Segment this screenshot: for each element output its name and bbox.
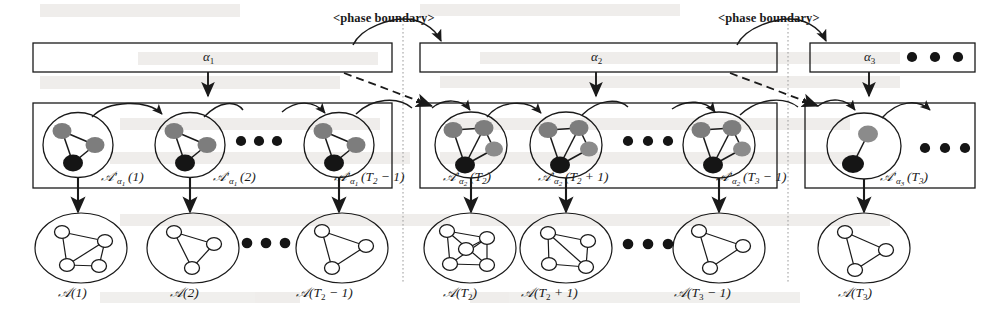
node-gray <box>347 137 366 153</box>
latent-label-ga1-1: 𝒜′α1 (1) <box>101 169 144 188</box>
node-gray <box>858 126 878 143</box>
observed-graph-nodes <box>315 225 374 275</box>
temporal-arrow-1 <box>92 103 162 117</box>
temporal-arrow-8 <box>672 102 715 112</box>
alpha-subscript: 1 <box>210 56 215 66</box>
graph-evolution-diagram: <phase boundary> <phase boundary> α1 α2 … <box>0 0 985 314</box>
phase-boundary-label-2: <phase boundary> <box>718 11 820 26</box>
latent-trailing-ellipsis <box>920 143 970 153</box>
latent-label-ga2-T2: 𝒜′α2 (T2) <box>443 169 491 188</box>
temporal-arrow-6 <box>487 103 541 117</box>
node-gray <box>539 122 558 138</box>
temporal-arrow-2 <box>204 104 243 117</box>
temporal-arrow-10 <box>818 100 855 110</box>
phase-label-alpha2: α2 <box>591 49 602 66</box>
alpha-symbol: α <box>203 49 210 64</box>
node-gray <box>165 123 184 139</box>
observed-label-g-T3: 𝒜(T3) <box>838 285 872 302</box>
latent-label-ga1-2: 𝒜′α1 (2) <box>213 169 256 188</box>
alpha-subscript: 3 <box>871 56 876 66</box>
latent-label-ga3-T3: 𝒜′α3 (T3) <box>880 169 928 188</box>
node-gray <box>475 120 494 136</box>
observed-label-g-1: 𝒜(1) <box>58 285 87 301</box>
node-gray <box>198 137 217 153</box>
dashed-arrow-1 <box>344 73 432 106</box>
node-gray <box>570 120 589 136</box>
scan-bleed-through <box>40 4 900 303</box>
temporal-arrow-4 <box>356 100 412 114</box>
observed-label-g-T2m1: 𝒜(T2 − 1) <box>296 285 353 302</box>
node-gray <box>723 120 742 136</box>
observed-label-g-T2p1: 𝒜(T2 + 1) <box>521 285 578 302</box>
diagram-canvas <box>0 0 985 314</box>
node-gray <box>733 142 751 157</box>
node-black <box>842 155 864 173</box>
latent-graph-nodes <box>314 123 366 172</box>
temporal-arrow-3 <box>282 103 325 113</box>
node-gray <box>580 142 598 157</box>
alpha-subscript: 2 <box>598 56 603 66</box>
observed-graph-nodes <box>167 226 222 275</box>
latent-ellipsis-2 <box>623 136 673 146</box>
node-gray <box>444 122 463 138</box>
latent-label-ga1-T2m1: 𝒜′α1 (T2 − 1) <box>334 169 405 188</box>
node-gray <box>53 123 72 139</box>
alpha-symbol: α <box>591 49 598 64</box>
node-gray <box>692 122 711 138</box>
latent-ellipsis-1 <box>236 136 282 146</box>
phase-boundary-label-1: <phase boundary> <box>333 11 435 26</box>
latent-graph-nodes <box>165 123 217 172</box>
phase-row-trailing-ellipsis <box>907 52 963 62</box>
node-gray <box>86 137 105 153</box>
observed-label-g-T2: 𝒜(T2) <box>443 285 477 302</box>
node-black <box>175 155 195 172</box>
observed-graph-nodes <box>838 226 894 277</box>
observed-ellipsis-1 <box>242 238 291 249</box>
node-gray <box>485 142 503 157</box>
node-black <box>63 155 83 172</box>
node-gray <box>314 123 333 139</box>
observed-graph-nodes <box>692 225 751 275</box>
latent-graph-nodes <box>53 123 105 172</box>
observed-label-g-T3m1: 𝒜(T3 − 1) <box>674 285 731 302</box>
observed-ellipsis-2 <box>623 239 674 250</box>
observed-graph-g-1 <box>35 213 127 283</box>
latent-label-ga2-T2p1: 𝒜′α2 (T2 + 1) <box>538 169 609 188</box>
observed-ellipse <box>35 213 127 283</box>
phase-label-alpha1: α1 <box>203 49 214 66</box>
observed-label-g-2: 𝒜(2) <box>170 285 199 301</box>
phase-label-alpha3: α3 <box>864 49 875 66</box>
temporal-arrow-11 <box>882 103 930 118</box>
latent-label-ga2-T3m1: 𝒜′α2 (T3 − 1) <box>716 169 787 188</box>
latent-graph-ga1-1 <box>43 113 113 178</box>
alpha-symbol: α <box>864 49 871 64</box>
